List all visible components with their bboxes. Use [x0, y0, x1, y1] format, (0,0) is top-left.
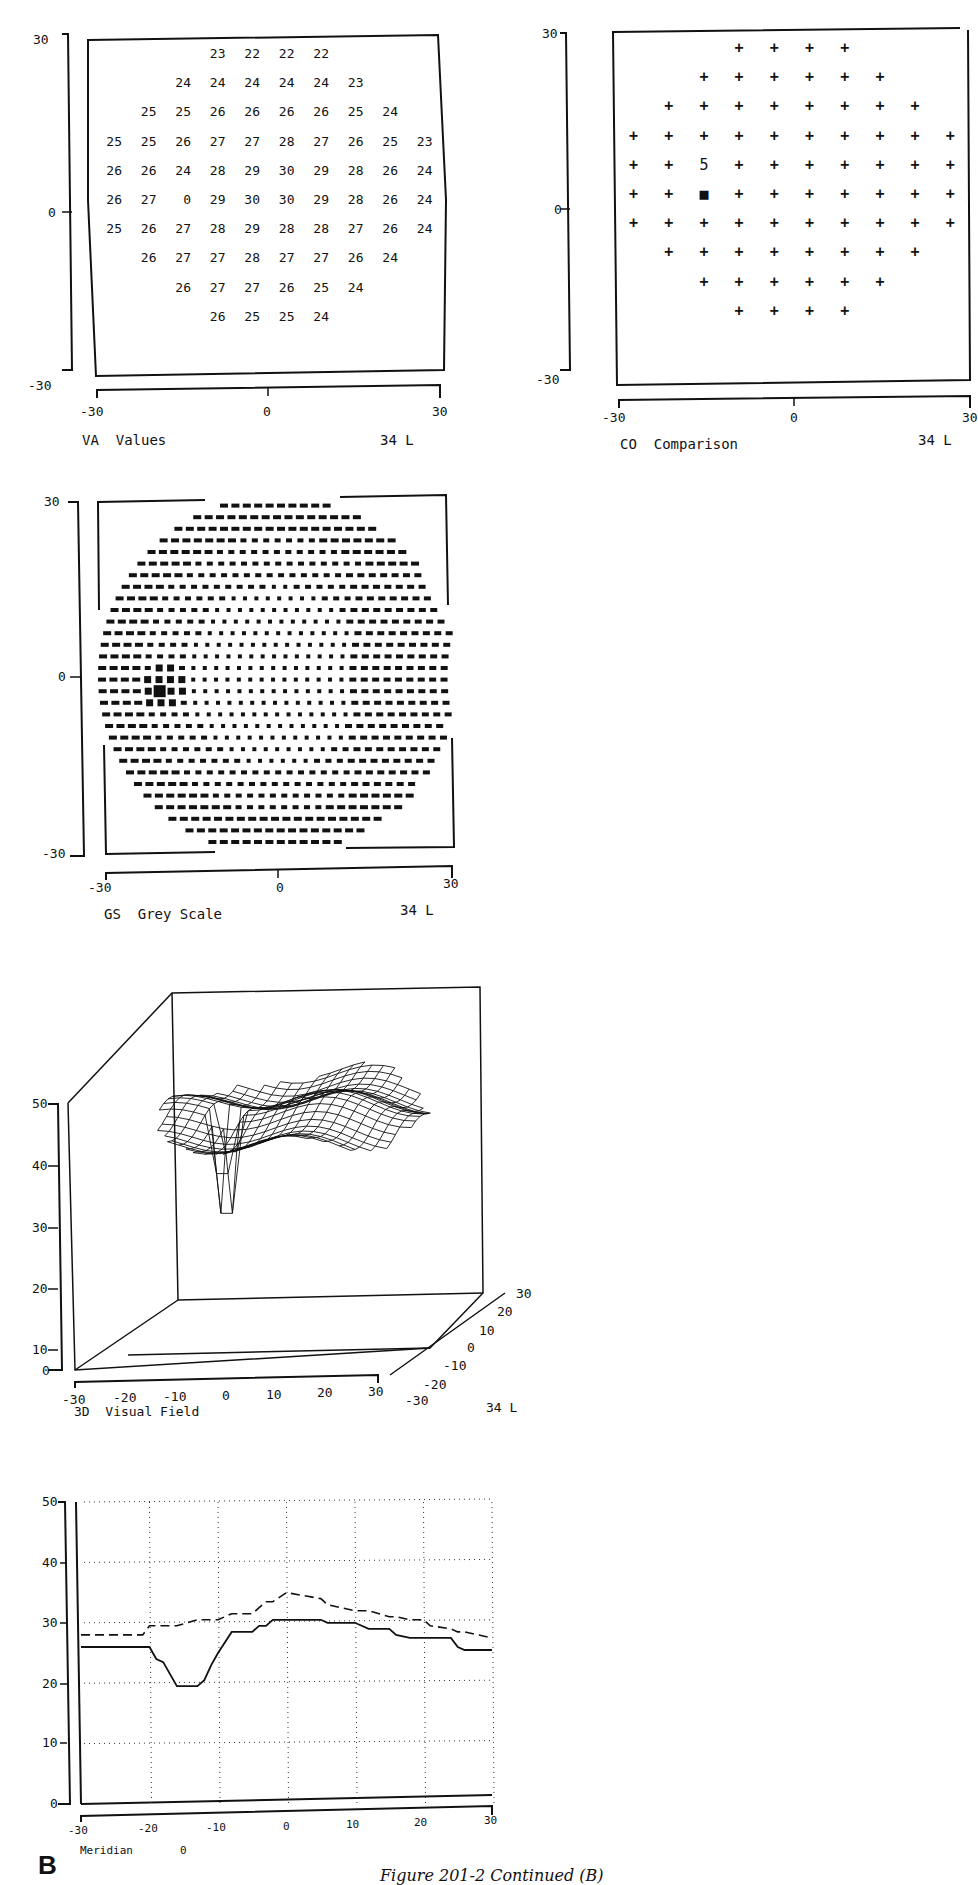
normal-plus-marker: + — [735, 243, 744, 261]
va-value-cell: 26 — [102, 192, 122, 207]
co-ytick-bottom: -30 — [536, 372, 559, 387]
va-value-cell: 25 — [137, 134, 157, 149]
va-value-cell: 30 — [240, 192, 260, 207]
normal-plus-marker: + — [664, 156, 673, 174]
va-value-cell: 27 — [206, 134, 226, 149]
normal-plus-marker: + — [805, 243, 814, 261]
normal-plus-marker: + — [911, 243, 920, 261]
va-value-cell: 25 — [137, 104, 157, 119]
3d-ytick-m20: -20 — [423, 1377, 446, 1392]
normal-plus-marker: + — [770, 127, 779, 145]
3d-ztick-40: 40 — [32, 1158, 48, 1173]
va-value-cell: 29 — [206, 192, 226, 207]
normal-plus-marker: + — [840, 243, 849, 261]
gs-xtick-right: 30 — [443, 876, 459, 891]
va-title: VA Values — [82, 432, 166, 448]
va-value-cell: 29 — [240, 163, 260, 178]
va-value-cell: 26 — [171, 280, 191, 295]
va-value-cell: 26 — [344, 250, 364, 265]
normal-plus-marker: + — [875, 68, 884, 86]
normal-plus-marker: + — [840, 156, 849, 174]
va-value-cell: 27 — [275, 250, 295, 265]
va-values-panel: 30 0 -30 -30 0 30 VA Values 34 L 2322222… — [0, 0, 460, 460]
3d-ztick-20: 20 — [32, 1281, 48, 1296]
normal-plus-marker: + — [911, 127, 920, 145]
va-value-cell: 28 — [275, 221, 295, 236]
gs-eye-label: 34 L — [400, 902, 434, 918]
va-value-cell: 24 — [309, 309, 329, 324]
normal-plus-marker: + — [770, 68, 779, 86]
va-ytick-top: 30 — [33, 32, 49, 47]
normal-plus-marker: + — [770, 97, 779, 115]
gs-title: GS Grey Scale — [104, 906, 222, 922]
va-value-cell: 24 — [413, 192, 433, 207]
normal-plus-marker: + — [840, 39, 849, 57]
3d-ytick-10: 10 — [479, 1323, 495, 1338]
va-value-cell: 30 — [275, 163, 295, 178]
normal-plus-marker: + — [911, 97, 920, 115]
va-value-cell: 27 — [344, 221, 364, 236]
mer-xtick-0: 0 — [283, 1820, 290, 1833]
va-value-cell: 26 — [240, 104, 260, 119]
normal-plus-marker: + — [840, 127, 849, 145]
va-value-cell: 25 — [102, 221, 122, 236]
normal-plus-marker: + — [946, 127, 955, 145]
mer-ytick-20: 20 — [42, 1676, 58, 1691]
normal-plus-marker: + — [770, 185, 779, 203]
va-ytick-mid: 0 — [48, 205, 56, 220]
va-value-cell: 24 — [413, 221, 433, 236]
3d-ztick-30: 30 — [32, 1220, 48, 1235]
normal-plus-marker: + — [946, 185, 955, 203]
normal-plus-marker: + — [735, 39, 744, 57]
va-value-cell: 27 — [171, 250, 191, 265]
mer-xtick-20: 20 — [414, 1816, 427, 1829]
3d-title: 3D Visual Field — [74, 1404, 199, 1419]
co-eye-label: 34 L — [918, 432, 952, 448]
normal-plus-marker: + — [629, 185, 638, 203]
normal-plus-marker: + — [805, 302, 814, 320]
normal-plus-marker: + — [735, 302, 744, 320]
mer-xtick-30: 30 — [484, 1814, 497, 1827]
mer-xtick-m20: -20 — [138, 1822, 158, 1835]
va-value-cell: 28 — [344, 192, 364, 207]
mer-ytick-40: 40 — [42, 1555, 58, 1570]
mer-xtick-m30: -30 — [68, 1824, 88, 1837]
va-value-cell: 22 — [275, 46, 295, 61]
normal-plus-marker: + — [875, 273, 884, 291]
meridian-gridlines — [84, 1499, 494, 1804]
va-value-cell: 24 — [206, 75, 226, 90]
normal-plus-marker: + — [911, 214, 920, 232]
va-value-cell: 27 — [206, 250, 226, 265]
normal-plus-marker: + — [805, 127, 814, 145]
mer-ytick-50: 50 — [42, 1494, 58, 1509]
va-value-cell: 24 — [378, 104, 398, 119]
3d-xtick-10: 10 — [266, 1387, 282, 1402]
va-value-cell: 26 — [171, 134, 191, 149]
normal-plus-marker: + — [946, 214, 955, 232]
measured-threshold-line — [81, 1620, 492, 1686]
normal-plus-marker: + — [875, 127, 884, 145]
mer-ytick-0: 0 — [50, 1796, 58, 1811]
va-value-cell: 27 — [309, 134, 329, 149]
normal-plus-marker: + — [735, 156, 744, 174]
absolute-defect-marker: ■ — [699, 185, 708, 203]
va-value-cell: 23 — [413, 134, 433, 149]
co-title: CO Comparison — [620, 436, 738, 452]
co-ytick-top: 30 — [542, 26, 558, 41]
va-value-cell: 25 — [378, 134, 398, 149]
normal-plus-marker: + — [840, 185, 849, 203]
normal-plus-marker: + — [664, 214, 673, 232]
gs-axes — [0, 460, 460, 920]
va-value-cell: 26 — [275, 104, 295, 119]
va-value-cell: 26 — [378, 221, 398, 236]
normal-threshold-line — [81, 1593, 492, 1638]
normal-plus-marker: + — [805, 156, 814, 174]
normal-plus-marker: + — [770, 273, 779, 291]
normal-plus-marker: + — [664, 127, 673, 145]
va-value-cell: 28 — [309, 221, 329, 236]
va-value-cell: 23 — [344, 75, 364, 90]
3d-ztick-50: 50 — [32, 1096, 48, 1111]
3d-xtick-0: 0 — [222, 1388, 230, 1403]
co-comparison-panel: 30 0 -30 -30 0 30 CO Comparison 34 L +++… — [550, 0, 976, 460]
va-value-cell: 25 — [102, 134, 122, 149]
